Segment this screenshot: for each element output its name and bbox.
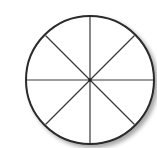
divided-circle-diagram <box>0 0 157 148</box>
center-point <box>88 78 92 82</box>
